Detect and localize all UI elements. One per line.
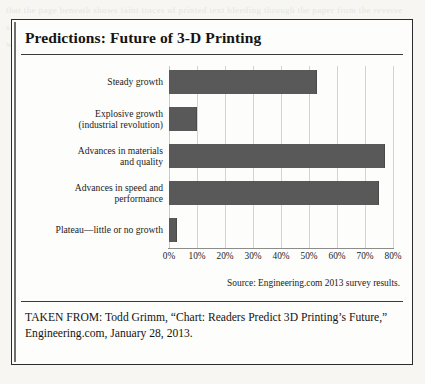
axis-line-baseline <box>168 248 394 249</box>
category-label: Plateau—little or no growth <box>13 224 163 236</box>
gridline <box>393 66 394 248</box>
bar-plateau[interactable] <box>169 218 177 242</box>
x-tick-label: 10% <box>188 251 205 261</box>
title-rule <box>21 54 403 55</box>
bar-advances-materials-quality[interactable] <box>169 144 385 168</box>
bar-explosive-growth[interactable] <box>169 107 197 131</box>
x-tick-label: 20% <box>216 251 233 261</box>
x-tick-label: 30% <box>244 251 261 261</box>
plot-area: Steady growth Explosive growth (industri… <box>169 66 393 248</box>
x-tick-label: 80% <box>384 251 401 261</box>
bar-steady-growth[interactable] <box>169 70 317 94</box>
category-label: Explosive growth (industrial revolution) <box>13 108 163 131</box>
bar-row: Advances in materials and quality <box>169 144 385 168</box>
bar-row: Steady growth <box>169 70 317 94</box>
bar-row: Advances in speed and performance <box>169 181 379 205</box>
figure-frame: Predictions: Future of 3-D Printing Stea… <box>11 19 413 365</box>
x-tick-label: 60% <box>328 251 345 261</box>
x-tick-label: 40% <box>272 251 289 261</box>
bar-advances-speed-performance[interactable] <box>169 181 379 205</box>
bar-chart: Steady growth Explosive growth (industri… <box>12 58 414 273</box>
category-label: Steady growth <box>13 76 163 88</box>
x-tick-label: 50% <box>300 251 317 261</box>
figure-title: Predictions: Future of 3-D Printing <box>25 29 261 47</box>
x-tick-label: 70% <box>356 251 373 261</box>
attribution-divider <box>21 301 403 302</box>
page-background: that the page beneath shows faint traces… <box>0 0 425 384</box>
x-tick-label: 0% <box>163 251 175 261</box>
bar-row: Plateau—little or no growth <box>169 218 177 242</box>
attribution-text: TAKEN FROM: Todd Grimm, “Chart: Readers … <box>25 310 395 341</box>
category-label: Advances in materials and quality <box>13 145 163 168</box>
category-label: Advances in speed and performance <box>13 182 163 205</box>
bar-row: Explosive growth (industrial revolution) <box>169 107 197 131</box>
source-note: Source: Engineering.com 2013 survey resu… <box>227 278 400 288</box>
